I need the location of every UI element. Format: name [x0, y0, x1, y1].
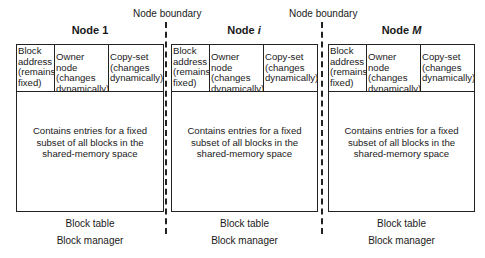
header-block-address: Block address (remains fixed) [329, 45, 367, 91]
node-1-id: 1 [102, 24, 108, 36]
node-1-block-table: Block address (remains fixed) Owner node… [16, 44, 164, 212]
node-1-title: Node 1 [16, 24, 164, 36]
header-copy-set: Copy-set (changes dynamically) [264, 45, 317, 91]
block-table-body-text: Contains entries for a fixed subset of a… [17, 125, 163, 160]
node-i-title: Node i [171, 24, 317, 36]
node-boundary-label-2: Node boundary [289, 8, 357, 19]
header-block-address: Block address (remains fixed) [172, 45, 210, 91]
node-i-block-table-label: Block table [171, 218, 318, 229]
header-owner-node: Owner node (changes dynamically) [210, 45, 264, 91]
header-block-address: Block address (remains fixed) [17, 45, 55, 91]
node-boundary-line-1 [165, 22, 167, 234]
header-owner-node: Owner node (changes dynamically) [367, 45, 421, 91]
block-table-body-text: Contains entries for a fixed subset of a… [329, 125, 474, 160]
header-copy-set: Copy-set (changes dynamically) [109, 45, 163, 91]
node-m-title: Node M [328, 24, 475, 36]
node-m-id: M [412, 24, 421, 36]
node-m-block-manager-label: Block manager [328, 235, 475, 246]
node-boundary-label-1: Node boundary [133, 8, 201, 19]
node-i-block-table: Block address (remains fixed) Owner node… [171, 44, 318, 212]
node-m-block-table: Block address (remains fixed) Owner node… [328, 44, 475, 212]
block-table-body-text: Contains entries for a fixed subset of a… [172, 125, 317, 160]
block-table-header: Block address (remains fixed) Owner node… [17, 45, 163, 92]
header-owner-node: Owner node (changes dynamically) [55, 45, 109, 91]
node-i-id: i [258, 24, 261, 36]
block-table-header: Block address (remains fixed) Owner node… [172, 45, 317, 92]
node-m-block-table-label: Block table [328, 218, 475, 229]
node-i-block-manager-label: Block manager [171, 235, 318, 246]
node-1-block-table-label: Block table [16, 218, 164, 229]
node-1-block-manager-label: Block manager [16, 235, 164, 246]
block-table-header: Block address (remains fixed) Owner node… [329, 45, 474, 92]
header-copy-set: Copy-set (changes dynamically) [421, 45, 474, 91]
node-boundary-line-2 [321, 22, 323, 234]
